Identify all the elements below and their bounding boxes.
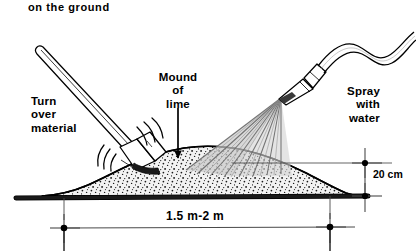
label-turn-over-material: Turn over material bbox=[31, 95, 77, 135]
label-spray-with-water: Spray with water bbox=[318, 85, 380, 125]
water-hose bbox=[318, 32, 416, 73]
top-caption: on the ground bbox=[28, 1, 110, 14]
dimension-label-height: 20 cm bbox=[373, 168, 403, 180]
lime-mound-diagram: on the ground Turn over material Mound o… bbox=[0, 0, 416, 251]
ground-baseline bbox=[16, 196, 368, 198]
dimension-label-width: 1.5 m-2 m bbox=[166, 210, 224, 224]
label-mound-of-lime: Mound of lime bbox=[150, 71, 206, 111]
